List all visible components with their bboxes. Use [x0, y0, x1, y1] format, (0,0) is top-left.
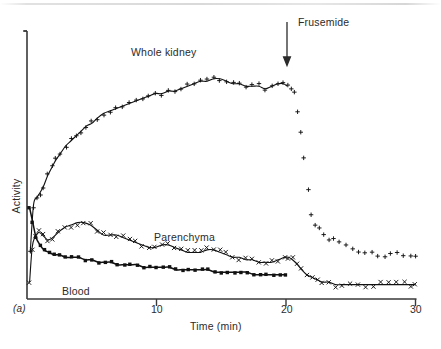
- plus-marker: [270, 84, 274, 88]
- square-marker: [97, 261, 100, 264]
- cross-marker: [75, 223, 79, 227]
- square-marker: [110, 260, 113, 263]
- cross-marker: [402, 280, 406, 284]
- plus-marker: [322, 232, 326, 236]
- plus-marker: [337, 240, 341, 244]
- square-marker: [154, 266, 157, 269]
- plus-marker: [292, 90, 296, 94]
- square-marker: [233, 271, 236, 274]
- cross-marker: [193, 248, 197, 252]
- square-marker: [128, 263, 131, 266]
- square-marker: [226, 271, 229, 274]
- plus-marker: [344, 243, 348, 247]
- square-marker: [220, 271, 223, 274]
- square-marker: [27, 206, 30, 209]
- square-marker: [53, 253, 56, 256]
- square-marker: [142, 266, 145, 269]
- cross-marker: [218, 248, 222, 252]
- square-marker: [43, 248, 46, 251]
- plus-marker: [192, 82, 196, 86]
- square-marker: [181, 269, 184, 272]
- plus-marker: [295, 110, 299, 114]
- square-marker: [148, 265, 151, 268]
- square-marker: [279, 273, 282, 276]
- square-marker: [34, 236, 37, 239]
- square-marker: [206, 267, 209, 270]
- plus-marker: [299, 130, 303, 134]
- cross-marker: [310, 275, 314, 279]
- cross-marker: [363, 285, 367, 289]
- plus-marker: [31, 206, 35, 210]
- square-marker: [168, 265, 171, 268]
- square-marker: [30, 221, 33, 224]
- cross-marker: [291, 255, 295, 259]
- plus-marker: [388, 251, 392, 255]
- cross-marker: [305, 273, 309, 277]
- plus-marker: [95, 117, 99, 121]
- square-marker: [70, 255, 73, 258]
- plus-marker: [53, 156, 57, 160]
- cross-marker: [101, 230, 105, 234]
- plus-marker: [356, 250, 360, 254]
- axis-tick-marks: [23, 31, 416, 306]
- frusemide-arrow: [284, 22, 291, 66]
- square-marker: [284, 273, 287, 276]
- square-marker: [64, 255, 67, 258]
- plus-marker: [313, 223, 317, 227]
- cross-marker: [394, 280, 398, 284]
- cross-marker: [334, 285, 338, 289]
- plus-marker: [351, 247, 355, 251]
- cross-marker: [121, 233, 125, 237]
- square-marker: [136, 264, 139, 267]
- cross-marker: [237, 258, 241, 262]
- plus-marker: [306, 187, 310, 191]
- down-arrow-icon: [284, 22, 291, 66]
- plus-marker: [69, 136, 73, 140]
- square-marker: [162, 265, 165, 268]
- plus-marker: [153, 91, 157, 95]
- plus-marker: [375, 254, 379, 258]
- cross-marker: [186, 248, 190, 252]
- axes: [23, 31, 417, 306]
- plus-marker: [301, 156, 305, 160]
- cross-marker: [295, 262, 299, 266]
- x-tick-label-20: 20: [281, 303, 293, 315]
- square-marker: [246, 271, 249, 274]
- square-marker: [187, 268, 190, 271]
- plus-marker: [289, 87, 293, 91]
- panel-letter: (a): [13, 303, 26, 314]
- series-label-whole-kidney: Whole kidney: [131, 46, 196, 58]
- plus-marker: [276, 82, 280, 86]
- cross-marker: [387, 280, 391, 284]
- square-marker: [264, 273, 267, 276]
- square-marker: [193, 268, 196, 271]
- series-line: [30, 222, 416, 284]
- plus-marker: [395, 250, 399, 254]
- square-marker: [174, 267, 177, 270]
- plus-marker: [309, 213, 313, 217]
- frusemide-annotation-label: Frusemide: [298, 16, 349, 28]
- plus-marker: [317, 226, 321, 230]
- x-tick-label-10: 10: [151, 303, 163, 315]
- plus-marker: [383, 255, 387, 259]
- square-marker: [58, 253, 61, 256]
- plus-marker: [409, 254, 413, 258]
- series-label-parenchyma: Parenchyma: [154, 231, 215, 243]
- plus-marker: [363, 251, 367, 255]
- cross-marker: [371, 285, 375, 289]
- square-marker: [239, 271, 242, 274]
- square-marker: [90, 258, 93, 261]
- cross-marker: [37, 228, 41, 232]
- square-marker: [252, 273, 255, 276]
- square-marker: [213, 270, 216, 273]
- plus-marker: [370, 250, 374, 254]
- x-tick-label-30: 30: [410, 303, 422, 315]
- x-axis-title: Time (min): [190, 320, 242, 332]
- cross-marker: [69, 225, 73, 229]
- plus-marker: [401, 253, 405, 257]
- plus-marker: [331, 236, 335, 240]
- plus-marker: [286, 83, 290, 87]
- plus-marker: [257, 81, 261, 85]
- plus-marker: [327, 238, 331, 242]
- plus-marker: [35, 196, 39, 200]
